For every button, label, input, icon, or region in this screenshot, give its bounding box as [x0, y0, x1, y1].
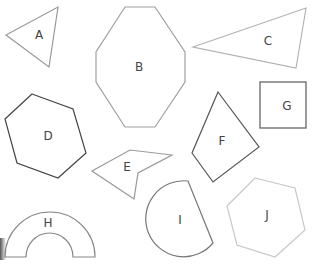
shape-b-label: B: [135, 60, 143, 74]
page-edge-shadow: [0, 238, 6, 260]
shape-e: E: [92, 150, 172, 199]
shape-j: J: [227, 178, 305, 257]
shape-d-label: D: [43, 129, 52, 143]
shape-h-label: H: [43, 216, 52, 230]
shape-f-outline: [192, 92, 259, 182]
shape-a-outline: [6, 7, 58, 67]
shape-i: I: [146, 181, 213, 257]
shape-b: B: [96, 7, 185, 127]
shape-c-label: C: [264, 34, 272, 48]
shape-i-label: I: [178, 213, 182, 227]
shape-f-label: F: [219, 134, 226, 148]
shapes-diagram: A B C D E F G H I J: [0, 0, 316, 267]
shape-a-label: A: [35, 28, 44, 42]
shape-e-outline: [92, 150, 172, 199]
shape-d: D: [5, 94, 86, 178]
shape-a: A: [6, 7, 58, 67]
shape-j-label: J: [264, 208, 269, 222]
shape-c: C: [193, 8, 306, 68]
shape-h: H: [5, 212, 95, 257]
shape-g-label: G: [282, 99, 291, 113]
shape-g: G: [260, 82, 306, 128]
shape-c-outline: [193, 8, 306, 68]
shape-e-label: E: [123, 160, 131, 174]
shape-f: F: [192, 92, 259, 182]
